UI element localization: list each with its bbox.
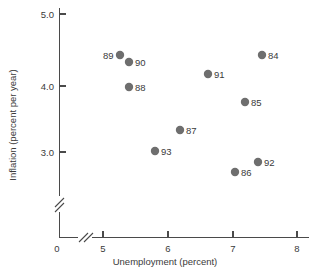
point-label: 90 [135, 57, 146, 68]
data-point-89[interactable]: 89 [103, 50, 124, 61]
point-marker[interactable] [116, 51, 124, 59]
point-label: 93 [161, 146, 172, 157]
point-marker[interactable] [258, 51, 266, 59]
y-axis-break-icon [55, 198, 64, 212]
data-point-85[interactable]: 85 [241, 97, 262, 108]
point-marker[interactable] [151, 147, 159, 155]
data-point-88[interactable]: 88 [125, 82, 146, 93]
point-label: 85 [251, 97, 262, 108]
y-tick-label-4: 4.0 [41, 81, 54, 92]
point-marker[interactable] [231, 168, 239, 176]
point-label: 89 [103, 50, 114, 61]
point-marker[interactable] [125, 58, 133, 66]
point-label: 88 [135, 82, 146, 93]
y-tick-label-5: 5.0 [41, 9, 54, 20]
y-axis-title: Inflation (percent per year) [7, 69, 18, 180]
data-point-90[interactable]: 90 [125, 57, 146, 68]
x-tick-label-7: 7 [230, 243, 235, 254]
point-label: 87 [186, 125, 197, 136]
point-marker[interactable] [176, 126, 184, 134]
data-point-86[interactable]: 86 [231, 167, 252, 178]
y-axis-ticks [60, 14, 67, 152]
point-label: 91 [214, 69, 225, 80]
point-label: 92 [264, 157, 275, 168]
x-tick-label-5: 5 [100, 243, 105, 254]
chart-canvas: 5.0 4.0 3.0 0 5 6 7 8 Unemployment (perc… [0, 0, 317, 269]
x-axis-break-icon [79, 233, 93, 242]
data-point-87[interactable]: 87 [176, 125, 197, 136]
point-marker[interactable] [241, 98, 249, 106]
point-marker[interactable] [204, 70, 212, 78]
data-point-group: 89 90 88 84 91 85 [103, 50, 279, 178]
data-point-92[interactable]: 92 [254, 157, 275, 168]
x-tick-label-0: 0 [54, 243, 59, 254]
data-point-93[interactable]: 93 [151, 146, 172, 157]
point-marker[interactable] [125, 83, 133, 91]
data-point-84[interactable]: 84 [258, 50, 279, 61]
data-point-91[interactable]: 91 [204, 69, 225, 80]
point-label: 84 [268, 50, 279, 61]
y-tick-label-3: 3.0 [41, 147, 54, 158]
scatter-plot-figure: 5.0 4.0 3.0 0 5 6 7 8 Unemployment (perc… [0, 0, 317, 269]
x-axis-title: Unemployment (percent) [113, 256, 218, 267]
x-tick-label-6: 6 [165, 243, 170, 254]
point-label: 86 [241, 167, 252, 178]
point-marker[interactable] [254, 158, 262, 166]
x-tick-label-8: 8 [294, 243, 299, 254]
x-axis-ticks [103, 231, 297, 238]
